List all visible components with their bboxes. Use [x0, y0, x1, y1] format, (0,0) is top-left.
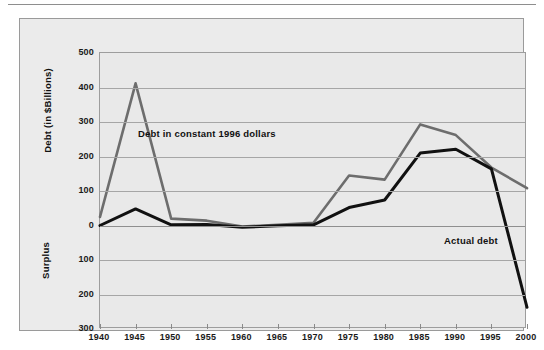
x-tick-mark [349, 324, 350, 329]
y-tick-label: 200 [78, 151, 94, 161]
y-tick: 300 [60, 116, 94, 126]
y-tick-label: 0 [89, 220, 94, 230]
x-tick-label: 1965 [257, 332, 297, 342]
x-tick-mark [100, 324, 101, 329]
y-tick: 200 [60, 151, 94, 161]
x-tick-mark [207, 324, 208, 329]
y-tick-label: 100 [78, 185, 94, 195]
x-tick-mark [242, 324, 243, 329]
x-tick-label: 1995 [470, 332, 510, 342]
x-tick-label: 1975 [328, 332, 368, 342]
series-line [100, 83, 527, 226]
x-tick-label: 1955 [186, 332, 226, 342]
x-tick-label: 1940 [79, 332, 119, 342]
y-axis-title-surplus: Surplus [40, 216, 51, 306]
y-axis-title-debt: Debt (in $Billions) [42, 51, 53, 171]
x-tick-label: 1970 [293, 332, 333, 342]
x-tick-mark [385, 324, 386, 329]
gridline [100, 157, 525, 158]
x-tick-mark [171, 324, 172, 329]
y-tick-label: 100 [78, 254, 94, 264]
y-tick-label: 400 [78, 82, 94, 92]
plot-area [99, 52, 526, 328]
y-tick-label: 500 [78, 47, 94, 57]
x-tick-label: 1945 [115, 332, 155, 342]
gridline [100, 88, 525, 89]
gridline [100, 295, 525, 296]
x-tick-mark [278, 324, 279, 329]
y-tick-label: 200 [78, 289, 94, 299]
series-label-constant-dollars: Debt in constant 1996 dollars [138, 128, 276, 139]
x-tick-mark [420, 324, 421, 329]
series-line [100, 149, 527, 307]
x-tick-mark [314, 324, 315, 329]
x-tick-label: 2000 [506, 332, 544, 342]
y-tick: 100 [60, 185, 94, 195]
x-tick-label: 1960 [221, 332, 261, 342]
zero-axis-line [100, 226, 525, 227]
y-tick: 100 [60, 254, 94, 264]
x-tick-mark [527, 324, 528, 329]
series-label-actual-debt: Actual debt [444, 235, 498, 246]
x-tick-mark [136, 324, 137, 329]
y-tick: 400 [60, 82, 94, 92]
gridline [100, 122, 525, 123]
figure-container: 5004003002001000100200300 19401945195019… [19, 18, 524, 331]
gridline [100, 260, 525, 261]
y-tick: 0 [60, 220, 94, 230]
x-tick-mark [456, 324, 457, 329]
y-tick: 200 [60, 289, 94, 299]
y-tick: 500 [60, 47, 94, 57]
y-tick-label: 300 [78, 116, 94, 126]
x-tick-label: 1980 [364, 332, 404, 342]
x-tick-mark [491, 324, 492, 329]
top-divider-rule [8, 4, 536, 5]
x-tick-label: 1985 [399, 332, 439, 342]
x-tick-label: 1990 [435, 332, 475, 342]
gridline [100, 191, 525, 192]
chart-page: 5004003002001000100200300 19401945195019… [0, 0, 544, 350]
x-tick-label: 1950 [150, 332, 190, 342]
